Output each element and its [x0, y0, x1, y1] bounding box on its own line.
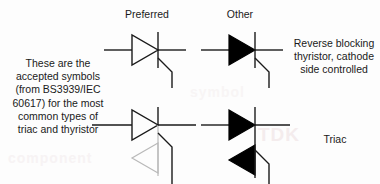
- upper-triangle: [229, 110, 255, 140]
- symbol-triac-other: [201, 107, 290, 184]
- symbol-thyristor-preferred: [104, 32, 186, 88]
- anode-triangle: [132, 35, 158, 65]
- symbol-diagram: TDK component symbol Preferred Other The…: [0, 0, 380, 184]
- gate-lead: [158, 58, 172, 88]
- schematic-canvas: [0, 0, 380, 184]
- upper-triangle: [132, 110, 158, 140]
- lower-triangle: [229, 145, 255, 175]
- gate-lead: [158, 133, 172, 184]
- symbol-triac-preferred: [92, 107, 196, 184]
- lower-triangle: [132, 143, 158, 173]
- gate-lead: [255, 150, 269, 184]
- symbol-thyristor-other: [201, 32, 283, 88]
- anode-triangle: [229, 35, 255, 65]
- gate-lead: [255, 58, 269, 88]
